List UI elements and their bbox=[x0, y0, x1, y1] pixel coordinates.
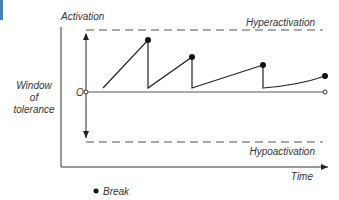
window-label-line-1: Window bbox=[16, 80, 52, 91]
activation-curve bbox=[103, 40, 325, 88]
window-label-line-2: of bbox=[30, 92, 40, 103]
origin-marker bbox=[84, 90, 88, 94]
legend-break-label: Break bbox=[103, 186, 130, 197]
window-label-line-3: tolerance bbox=[13, 104, 55, 115]
hyperactivation-label: Hyperactivation bbox=[246, 17, 315, 28]
break-point-2 bbox=[189, 54, 195, 60]
break-point-4 bbox=[322, 73, 328, 79]
x-axis-label: Time bbox=[291, 171, 314, 182]
break-point-1 bbox=[145, 37, 151, 43]
break-point-3 bbox=[260, 62, 266, 68]
hypoactivation-label: Hypoactivation bbox=[249, 146, 315, 157]
legend-break-icon bbox=[94, 189, 99, 194]
origin-label: O bbox=[76, 87, 84, 98]
baseline-end-marker bbox=[323, 90, 327, 94]
y-axis-label: Activation bbox=[60, 11, 105, 22]
window-of-tolerance-diagram: Activation Hyperactivation Hypoactivatio… bbox=[0, 0, 339, 200]
